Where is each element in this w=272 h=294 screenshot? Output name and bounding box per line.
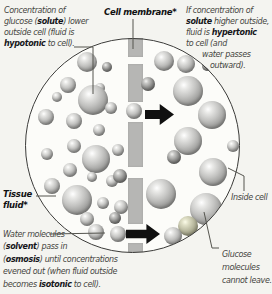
caption-line: glucose (solute) lower (4, 16, 88, 27)
osmosis-diagram: Concentration ofglucose (solute) lowerou… (0, 0, 272, 294)
caption-line: evened out (when fluid outside (3, 266, 118, 278)
caption-line: water passes (186, 49, 269, 60)
label-inside-cell: Inside cell (231, 193, 267, 202)
caption-glucose-cannot-leave: Glucosemoleculescannot leave. (222, 248, 272, 287)
caption-hypertonic: If concentration ofsolute higher outside… (186, 5, 269, 71)
caption-line: (solvent) pass in (3, 241, 118, 253)
caption-hypotonic: Concentration ofglucose (solute) lowerou… (4, 5, 88, 49)
caption-line: Concentration of (4, 5, 88, 16)
caption-line: to cell (and (186, 38, 269, 49)
caption-line: Water molecules (3, 229, 118, 241)
caption-line: fluid is hypertonic (186, 27, 269, 38)
caption-osmosis: Water molecules(solvent) pass in(osmosis… (3, 229, 118, 291)
caption-line: cannot leave. (222, 274, 272, 287)
label-tissue-fluid: Tissue fluid* (3, 189, 32, 211)
caption-line: outside cell (fluid is (4, 27, 88, 38)
caption-line: molecules (222, 261, 272, 274)
caption-line: becomes isotonic to cell). (3, 279, 118, 291)
caption-line: (osmosis) until concentrations (3, 254, 118, 266)
caption-line: hypotonic to cell). (4, 38, 88, 49)
caption-line: solute higher outside, (186, 16, 269, 27)
label-cell-membrane: Cell membrane* (104, 7, 176, 18)
caption-line: If concentration of (186, 5, 269, 16)
caption-line: Glucose (222, 248, 272, 261)
caption-line: outward). (186, 60, 269, 71)
